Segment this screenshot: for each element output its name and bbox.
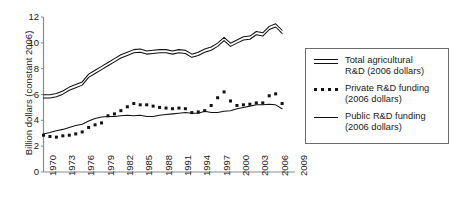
legend-item-private: Private R&D funding (2006 dollars) xyxy=(312,83,448,105)
chart-figure: Billion dollars (constant 2006) 02468101… xyxy=(0,0,460,220)
double-line-key-icon xyxy=(312,56,342,67)
legend-label-total: Total agricultural R&D (2006 dollars) xyxy=(342,55,424,77)
chart-legend: Total agricultural R&D (2006 dollars) Pr… xyxy=(305,48,449,144)
x-tick-label: 1994 xyxy=(202,155,212,176)
legend-item-total: Total agricultural R&D (2006 dollars) xyxy=(312,55,448,77)
x-tick-label: 1997 xyxy=(222,155,232,176)
solid-line-key-icon xyxy=(312,112,342,123)
x-tick-label: 1970 xyxy=(48,155,58,176)
x-tick-label: 1991 xyxy=(183,155,193,176)
x-tick-label: 1976 xyxy=(86,155,96,176)
x-tick-label: 2009 xyxy=(299,155,309,176)
dotted-line-key-icon xyxy=(312,84,342,95)
x-tick-label: 1973 xyxy=(67,155,77,176)
x-tick-label: 2003 xyxy=(260,155,270,176)
x-tick-label: 2000 xyxy=(241,155,251,176)
x-tick-label: 2006 xyxy=(280,155,290,176)
x-tick-label: 1982 xyxy=(125,155,135,176)
legend-label-private: Private R&D funding (2006 dollars) xyxy=(342,83,429,105)
legend-label-public: Public R&D funding (2006 dollars) xyxy=(342,111,426,133)
x-tick-label: 1985 xyxy=(144,155,154,176)
legend-item-public: Public R&D funding (2006 dollars) xyxy=(312,111,448,133)
x-tick-label: 1988 xyxy=(164,155,174,176)
x-tick-label: 1979 xyxy=(106,155,116,176)
